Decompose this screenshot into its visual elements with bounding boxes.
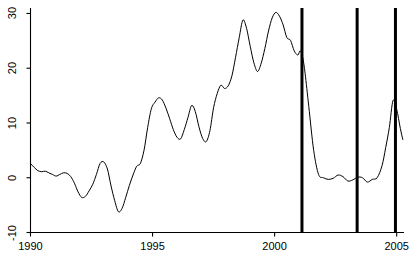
x-tick-marks	[31, 233, 397, 237]
y-tick-label-20: 20	[5, 55, 19, 81]
y-tick-label-10: 10	[5, 110, 19, 136]
y-tick-label-30: 30	[5, 0, 19, 26]
event-vertical-lines	[302, 8, 395, 233]
y-tick-marks	[27, 13, 31, 232]
x-tick-label-2005: 2005	[375, 240, 412, 252]
x-tick-label-2000: 2000	[253, 240, 297, 252]
series-line-1	[31, 12, 403, 212]
line-chart: -100102030 1990199520002005	[0, 0, 412, 268]
x-tick-label-1990: 1990	[9, 240, 53, 252]
y-tick-label-0: 0	[5, 165, 19, 191]
x-tick-label-1995: 1995	[131, 240, 175, 252]
chart-canvas	[0, 0, 412, 268]
axes-group	[31, 8, 405, 233]
